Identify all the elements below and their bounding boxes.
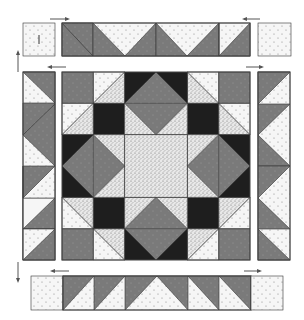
center-square [125,135,188,198]
arrow-left-icon [242,17,260,21]
left-border-strip [23,72,55,260]
top-border-row [23,23,291,56]
quilt-diagram [0,0,304,320]
arrow-right-icon [246,65,264,69]
bottom-border-row [31,276,283,310]
arrow-right-icon [244,269,262,273]
right-border-strip [258,72,290,260]
arrow-down-icon [16,262,20,283]
arrow-left-icon [50,269,69,273]
corner-square-bottom-left [31,276,63,310]
bottom-border-strip [63,276,251,310]
center-block [62,72,250,260]
corner-gray-square [62,72,93,103]
corner-square-bottom-right [251,276,283,310]
arrow-right-icon [50,17,70,21]
corner-square-top-right [258,23,291,56]
top-border-strip [62,23,250,56]
arrow-up-icon [16,50,20,72]
arrow-left-icon [47,65,66,69]
